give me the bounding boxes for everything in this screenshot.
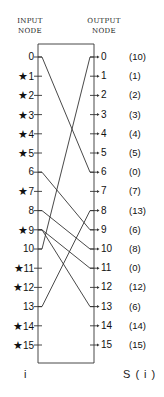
star-icon: ★: [18, 89, 28, 101]
arrow-head-icon: [97, 286, 100, 289]
input-node-label: 2: [28, 90, 34, 101]
s-value-label: (1): [129, 70, 155, 82]
input-node-13: 13: [0, 301, 34, 313]
star-icon: ★: [13, 339, 23, 351]
output-node-label: 9: [101, 224, 121, 236]
output-node-label: 15: [101, 339, 121, 351]
arrow-head-icon: [97, 94, 100, 97]
input-node-15: ★15: [0, 339, 34, 352]
input-node-3: ★3: [0, 109, 34, 122]
arrow-head-icon: [97, 267, 100, 270]
output-node-label: 4: [101, 128, 121, 140]
arrow-head-icon: [97, 209, 100, 212]
s-value-label: (15): [129, 339, 155, 351]
s-value-label: (0): [129, 262, 155, 274]
input-node-label: 8: [28, 205, 34, 216]
input-node-4: ★4: [0, 128, 34, 141]
output-node-label: 8: [101, 205, 121, 217]
input-node-11: ★11: [0, 262, 34, 275]
output-node-label: 14: [101, 320, 121, 332]
input-node-label: 0: [28, 51, 34, 62]
s-value-label: (13): [129, 205, 155, 217]
input-node-label: 1: [28, 71, 34, 82]
star-icon: ★: [13, 320, 23, 332]
s-value-label: (2): [129, 89, 155, 101]
star-icon: ★: [18, 128, 28, 140]
star-icon: ★: [18, 224, 28, 236]
input-node-label: 4: [28, 129, 34, 140]
output-node-label: 10: [101, 243, 121, 255]
connection-line: [38, 230, 94, 307]
output-node-label: 1: [101, 70, 121, 82]
input-node-14: ★14: [0, 320, 34, 333]
s-value-label: (10): [129, 51, 155, 63]
input-node-label: 15: [23, 340, 34, 351]
arrow-head-icon: [97, 113, 100, 116]
input-node-label: 11: [24, 263, 34, 274]
input-node-0: 0: [0, 51, 34, 63]
input-node-5: ★5: [0, 147, 34, 160]
output-node-label: 12: [101, 281, 121, 293]
s-value-label: (0): [129, 166, 155, 178]
arrow-head-icon: [97, 228, 100, 231]
input-node-label: 3: [28, 110, 34, 121]
input-node-label: 5: [28, 148, 34, 159]
star-icon: ★: [18, 147, 28, 159]
output-node-label: 7: [101, 185, 121, 197]
arrow-head-icon: [97, 248, 100, 251]
input-node-label: 10: [23, 243, 34, 254]
arrow-head-icon: [97, 344, 100, 347]
arrow-head-icon: [97, 75, 100, 78]
output-node-label: 3: [101, 109, 121, 121]
output-node-label: 5: [101, 147, 121, 159]
output-node-label: 13: [101, 301, 121, 313]
output-node-label: 11: [101, 262, 121, 274]
input-node-6: 6: [0, 166, 34, 178]
s-value-label: (6): [129, 301, 155, 313]
input-node-1: ★1: [0, 70, 34, 83]
s-value-label: (5): [129, 147, 155, 159]
arrow-head-icon: [97, 152, 100, 155]
output-node-label: 6: [101, 166, 121, 178]
output-node-label: 2: [101, 89, 121, 101]
input-node-label: 7: [28, 186, 34, 197]
s-value-label: (6): [129, 224, 155, 236]
input-node-label: 14: [23, 321, 34, 332]
arrow-head-icon: [97, 190, 100, 193]
input-node-2: ★2: [0, 89, 34, 102]
input-node-8: 8: [0, 205, 34, 217]
arrow-head-icon: [97, 56, 100, 59]
star-icon: ★: [14, 262, 24, 274]
star-icon: ★: [13, 281, 23, 293]
s-value-label: (12): [129, 281, 155, 293]
input-node-12: ★12: [0, 281, 34, 294]
arrow-head-icon: [97, 324, 100, 327]
arrow-head-icon: [97, 132, 100, 135]
star-icon: ★: [18, 109, 28, 121]
s-value-label: (4): [129, 128, 155, 140]
arrow-head-icon: [97, 171, 100, 174]
input-node-label: 13: [23, 301, 34, 312]
footer-input-index: i: [24, 368, 26, 380]
network-frame: [38, 44, 94, 363]
s-value-label: (7): [129, 185, 155, 197]
input-node-10: 10: [0, 243, 34, 255]
s-value-label: (3): [129, 109, 155, 121]
s-value-label: (8): [129, 243, 155, 255]
star-icon: ★: [18, 70, 28, 82]
output-node-label: 0: [101, 51, 121, 63]
connection-line: [38, 230, 94, 268]
input-node-label: 12: [23, 282, 34, 293]
arrow-head-icon: [97, 305, 100, 308]
input-node-9: ★9: [0, 224, 34, 237]
input-node-label: 9: [28, 225, 34, 236]
input-node-7: ★7: [0, 185, 34, 198]
star-icon: ★: [18, 185, 28, 197]
connection-line: [38, 172, 94, 230]
s-value-label: (14): [129, 320, 155, 332]
input-node-label: 6: [28, 166, 34, 177]
footer-s-of-i: S ( i ): [123, 368, 156, 380]
